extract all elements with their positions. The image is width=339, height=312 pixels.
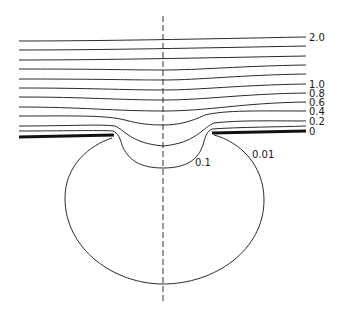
label-0-1: 0.1: [195, 157, 211, 168]
plate-right: [212, 131, 306, 133]
plate-left: [19, 135, 114, 137]
label-0-01: 0.01: [252, 149, 274, 160]
label-0: 0: [309, 126, 315, 137]
label-2-0: 2.0: [309, 32, 325, 43]
contour-0-01: [65, 135, 264, 284]
field-diagram: 2.0 1.0 0.8 0.6 0.4 0.2 0 0.1 0.01: [0, 0, 339, 312]
